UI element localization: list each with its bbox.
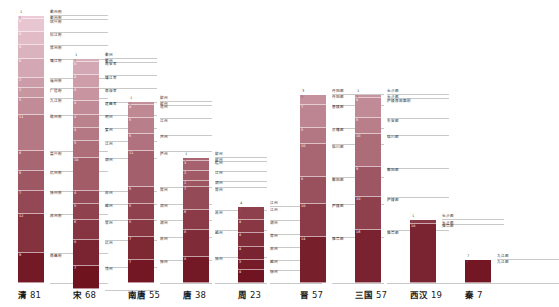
segment-value: 3	[239, 260, 241, 264]
dynasty-name: 三国	[355, 290, 373, 300]
bar-segment[interactable]: 3	[18, 78, 44, 88]
bar-segment[interactable]: 3	[238, 260, 264, 270]
bar-segment[interactable]: 7	[300, 105, 326, 128]
bar-segment[interactable]: 4	[238, 270, 264, 283]
segment-value: 4	[19, 19, 21, 23]
bar-segment[interactable]: 4	[238, 220, 264, 233]
bar-segment[interactable]: 6	[73, 220, 99, 240]
bar-segment[interactable]: 5	[128, 204, 154, 221]
bar-segment[interactable]: 5	[128, 187, 154, 204]
segment-label: 越州	[215, 231, 223, 235]
bar-segment[interactable]: 4	[73, 115, 99, 128]
bar-segment[interactable]: 3	[300, 95, 326, 105]
segment-value: 4	[74, 128, 76, 132]
segment-label: 鄱阳郡	[387, 168, 399, 172]
bar-segment[interactable]: 14	[300, 237, 326, 283]
segment-label: 庐陵郡	[332, 204, 344, 208]
segment-label: 扬州	[215, 257, 223, 261]
top-tick-value: 3	[302, 89, 304, 93]
bar-segment[interactable]: 7	[128, 260, 154, 283]
bar-segment[interactable]: 5	[128, 220, 154, 237]
top-tick-value: 1	[412, 214, 414, 218]
bar-segment[interactable]: 4	[73, 101, 99, 114]
bar-segment[interactable]: 5	[300, 128, 326, 145]
dynasty-name: 西汉	[410, 290, 428, 300]
bar-segment[interactable]: 4	[73, 62, 99, 75]
bar-segment[interactable]: 4	[18, 19, 44, 32]
bar-segment[interactable]: 4	[238, 247, 264, 260]
bar-segment[interactable]: 9	[355, 167, 381, 197]
segment-value: 6	[19, 151, 21, 155]
segment-value: 5	[129, 118, 131, 122]
bar-segment[interactable]: 4	[18, 45, 44, 58]
bar-segment[interactable]: 4	[238, 233, 264, 246]
segment-label: 庐州	[160, 152, 168, 156]
bar-segment[interactable]: 10	[355, 134, 381, 167]
bar-segment[interactable]: 18	[410, 224, 436, 283]
bar-segment[interactable]: 10	[355, 197, 381, 230]
dynasty-footer-晋: 晋 57	[300, 290, 323, 300]
segment-value: 16	[356, 230, 360, 234]
bar-segment[interactable]: 8	[183, 257, 209, 283]
segment-label: 徽州府	[50, 115, 62, 119]
bar-segment[interactable]: 6	[183, 210, 209, 230]
bar-segment[interactable]: 8	[73, 240, 99, 266]
label-rule	[270, 283, 322, 284]
bar-segment[interactable]: 7	[465, 260, 491, 283]
bar-segment[interactable]: 10	[300, 204, 326, 237]
bar-segment[interactable]: 7	[183, 187, 209, 210]
bar-segment[interactable]: 11	[128, 151, 154, 187]
segment-value: 3	[19, 88, 21, 92]
bar-segment[interactable]: 4	[128, 105, 154, 118]
segment-value: 12	[19, 214, 23, 218]
segment-value: 8	[74, 240, 76, 244]
bar-segment[interactable]: 8	[300, 177, 326, 203]
dynasty-footer-周: 周 23	[238, 290, 261, 300]
bar-segment[interactable]: 5	[128, 118, 154, 135]
bar-segment[interactable]: 4	[73, 75, 99, 88]
segment-label: 会稽郡	[332, 128, 344, 132]
bar-segment[interactable]: 6	[355, 98, 381, 118]
bar-segment[interactable]: 4	[73, 88, 99, 101]
bar-segment[interactable]: 5	[73, 141, 99, 158]
dynasty-footer-南唐: 南唐 55	[128, 290, 160, 300]
bar-segment[interactable]: 5	[128, 134, 154, 151]
bar-segment[interactable]: 3	[18, 88, 44, 98]
bar-segment[interactable]: 3	[183, 161, 209, 171]
bar-segment[interactable]: 5	[18, 98, 44, 115]
bar-segment[interactable]: 6	[18, 59, 44, 79]
bar-segment[interactable]: 9	[18, 253, 44, 283]
bar-segment[interactable]: 16	[355, 230, 381, 283]
label-rule	[332, 283, 384, 284]
bar-segment[interactable]: 2	[183, 181, 209, 188]
bar-segment[interactable]: 4	[238, 207, 264, 220]
bar-segment[interactable]: 12	[18, 214, 44, 254]
dynasty-name: 南唐	[128, 290, 146, 300]
bar-segment[interactable]: 11	[18, 115, 44, 151]
segment-label: 江州	[215, 171, 223, 175]
top-tick-label: 歙州	[215, 152, 223, 156]
bar-segment[interactable]: 7	[128, 237, 154, 260]
dynasty-total: 57	[376, 290, 387, 300]
top-tick-rule	[105, 58, 157, 59]
segment-label: 九江府	[50, 99, 62, 103]
bar-segment[interactable]: 5	[355, 118, 381, 135]
segment-value: 5	[74, 141, 76, 145]
bar-segment[interactable]: 3	[183, 171, 209, 181]
bar-segment[interactable]: 6	[18, 171, 44, 191]
bar-segment[interactable]: 8	[183, 230, 209, 256]
segment-label: 庐陵南部都尉	[387, 99, 411, 103]
bar-segment[interactable]: 10	[300, 144, 326, 177]
segment-label: 扬州	[270, 270, 278, 274]
bar-segment[interactable]: 4	[73, 128, 99, 141]
bar-segment[interactable]: 7	[18, 191, 44, 214]
segment-label: 常州	[270, 234, 278, 238]
segment-value: 6	[19, 171, 21, 175]
bar-segment[interactable]: 6	[18, 151, 44, 171]
bar-segment[interactable]: 10	[73, 158, 99, 191]
bar-segment[interactable]: 7	[73, 266, 99, 289]
segment-value: 5	[129, 187, 131, 191]
bar-segment[interactable]: 4	[18, 32, 44, 45]
bar-segment[interactable]: 5	[73, 204, 99, 221]
bar-segment[interactable]: 4	[73, 191, 99, 204]
